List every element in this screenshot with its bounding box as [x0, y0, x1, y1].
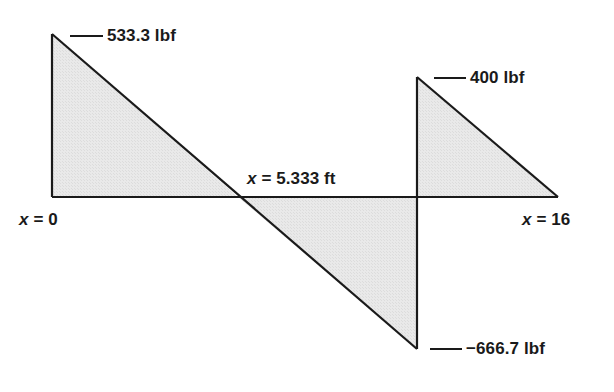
- x-zero-value: = 5.333 ft: [257, 169, 336, 188]
- x-zero-variable: x: [247, 169, 257, 188]
- peak-right-value-label: 400 lbf: [470, 69, 525, 86]
- x-start-value: = 0: [29, 210, 58, 229]
- peak-positive-value-label: 533.3 lbf: [107, 27, 176, 44]
- peak-negative-value-label: −666.7 lbf: [466, 340, 545, 357]
- shear-force-diagram: 533.3 lbf 400 lbf −666.7 lbf x = 0 x = 5…: [0, 0, 614, 392]
- x-zero-crossing-label: x = 5.333 ft: [247, 170, 336, 187]
- x-end-value: = 16: [532, 210, 571, 229]
- x-end-variable: x: [522, 210, 532, 229]
- x-start-variable: x: [19, 210, 29, 229]
- x-end-label: x = 16: [522, 211, 570, 228]
- diagram-canvas: [0, 0, 614, 392]
- x-start-label: x = 0: [19, 211, 58, 228]
